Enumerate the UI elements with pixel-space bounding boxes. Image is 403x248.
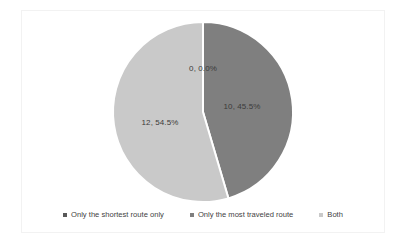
legend-item[interactable]: Both [319, 210, 343, 220]
pie-data-label: 12, 54.5% [142, 118, 179, 127]
chart-legend: Only the shortest route onlyOnly the mos… [21, 206, 385, 224]
pie-data-label: 0, 0.0% [189, 64, 217, 73]
legend-item[interactable]: Only the most traveled route [190, 210, 293, 220]
square-marker-icon [319, 213, 323, 217]
legend-item[interactable]: Only the shortest route only [63, 210, 164, 220]
pie-data-label: 10, 45.5% [224, 102, 261, 111]
legend-item-label: Only the most traveled route [198, 210, 293, 220]
pie-chart-figure: 0, 0.0%10, 45.5%12, 54.5% Only the short… [0, 0, 403, 248]
square-marker-icon [63, 213, 67, 217]
square-marker-icon [190, 213, 194, 217]
pie-slice-group [113, 22, 293, 202]
legend-item-label: Both [327, 210, 343, 220]
legend-item-label: Only the shortest route only [71, 210, 164, 220]
